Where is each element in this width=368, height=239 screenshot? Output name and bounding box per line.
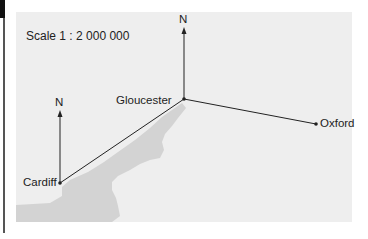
place-label-gloucester: Gloucester bbox=[116, 95, 172, 107]
arrowhead-icon bbox=[58, 110, 63, 117]
estuary-water bbox=[16, 103, 186, 222]
scale-label: Scale 1 : 2 000 000 bbox=[26, 30, 129, 42]
north-label-cardiff: N bbox=[55, 97, 63, 109]
point-cardiff bbox=[58, 181, 62, 185]
point-oxford bbox=[314, 122, 318, 126]
place-label-cardiff: Cardiff bbox=[23, 177, 57, 189]
place-label-oxford: Oxford bbox=[320, 118, 355, 130]
arrowhead-icon bbox=[182, 27, 187, 34]
north-label-gloucester: N bbox=[179, 14, 187, 26]
point-gloucester bbox=[182, 97, 186, 101]
route-gloucester-oxford bbox=[184, 99, 316, 124]
